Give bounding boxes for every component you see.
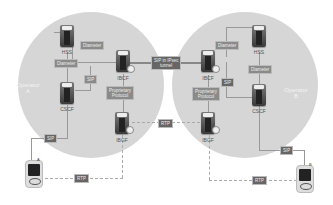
b-hss-server-icon [252,25,266,47]
b-cscf-label: CSCF [244,108,274,114]
a-hss-label: HSS [52,49,82,55]
ue-a-label: A [37,157,40,162]
b-ibcf-label: IBCF [193,75,223,81]
link-a-horiz-ibcf [72,62,116,63]
operator-b-label-line2: B [276,93,316,99]
operator-b-label: Operator B [276,87,316,99]
a-ibgf-globe-icon [126,126,134,134]
ue-b-label: B [309,162,312,167]
b-diameter-top-tag: Diameter [215,41,239,50]
b-rtp-ue-tag: RTP [252,176,267,185]
a-sip-ue-tag: SIP [44,134,57,143]
interconnect-sip-tag: SIP in IPsec tunnel [151,56,181,70]
a-rtp-ue-tag: RTP [74,174,89,183]
interconnect-sip-line2: tunnel [154,63,178,68]
a-hss-server-icon [60,25,74,47]
a-proprietary-line2: Protocol [109,93,131,98]
b-diameter-right-tag: Diameter [248,65,272,74]
a-cscf-label: CSCF [52,106,82,112]
b-sip-ue-tag: SIP [280,146,293,155]
link-b-ue-v [304,150,305,165]
link-b-ibcf-hss-top [226,27,252,28]
link-a-cscf-sip [75,90,90,91]
a-ibcf-lock-icon [127,65,135,73]
b-hss-label: HSS [244,49,274,55]
a-ibgf-label: IBGF [107,137,137,143]
b-ibgf-label: IBGF [193,137,223,143]
b-proprietary-line2: Protocol [195,94,217,99]
b-ibgf-globe-icon [212,126,220,134]
operator-a-label-line2: A [8,88,48,94]
a-proprietary-tag: Proprietary Protocol [106,86,134,100]
operator-a-label: Operator A [8,82,48,94]
b-cscf-server-icon [252,84,266,106]
ue-a-phone-icon [25,160,43,188]
b-ibcf-lock-icon [212,65,220,73]
b-proprietary-tag: Proprietary Protocol [192,87,220,101]
a-diameter-left-tag: Diameter [54,59,78,68]
a-diameter-top-tag: Diameter [80,41,104,50]
a-sip-inner-tag: SIP [84,75,97,84]
ue-b-phone-icon [296,165,314,193]
a-cscf-server-icon [60,82,74,104]
link-a-ue-v [31,138,32,160]
a-ibcf-label: IBCF [108,75,138,81]
b-sip-inner-tag: SIP [221,78,234,87]
interconnect-rtp-tag: RTP [158,119,173,128]
